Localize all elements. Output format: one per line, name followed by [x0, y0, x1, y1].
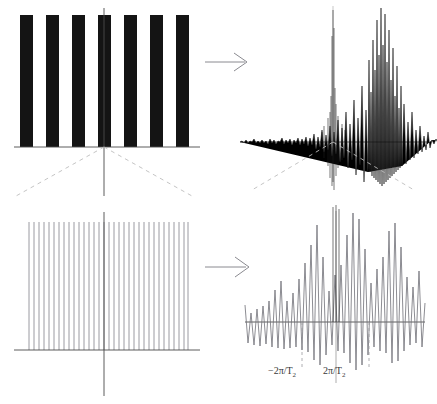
harmonic-label-negative-sub: 2 — [293, 371, 297, 379]
bar — [124, 15, 137, 147]
panel-sinc-modulated-spectrum: −2π/T2 2π/T2 — [235, 205, 437, 404]
comb-impulses — [29, 222, 188, 350]
bar — [72, 15, 85, 147]
dirac-comb-svg — [0, 200, 210, 404]
dashed-guide-left — [16, 147, 104, 196]
panel-square-wave-grating — [0, 0, 210, 200]
panel-dirac-comb — [0, 200, 210, 404]
bar — [46, 15, 59, 147]
bar — [20, 15, 33, 147]
harmonic-label-positive-text: 2π/T — [323, 365, 342, 376]
spectrum-trace — [245, 213, 425, 370]
square-wave-grating-svg — [0, 0, 210, 200]
harmonic-label-negative-text: −2π/T — [268, 365, 293, 376]
bar — [98, 15, 111, 147]
grating-bars — [20, 15, 189, 147]
spectrum-noise-trace — [240, 8, 437, 186]
harmonic-label-positive-sub: 2 — [342, 371, 346, 379]
noisy-spectrum-svg — [232, 0, 437, 200]
bar — [150, 15, 163, 147]
bar — [176, 15, 189, 147]
panel-noisy-spectrum — [232, 0, 437, 200]
harmonic-label-positive: 2π/T2 — [323, 365, 345, 379]
dashed-guide-right — [104, 147, 192, 196]
harmonic-label-negative: −2π/T2 — [268, 365, 296, 379]
